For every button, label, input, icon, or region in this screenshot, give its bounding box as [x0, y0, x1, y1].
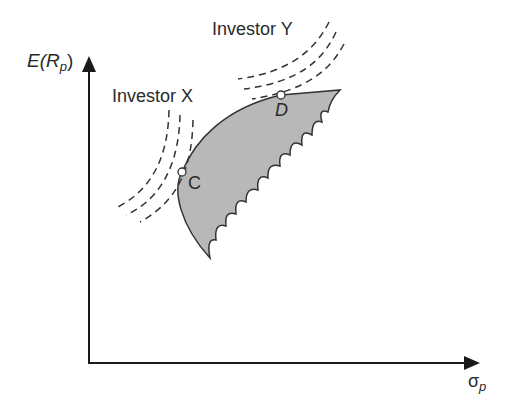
y-axis-arrow-icon [82, 56, 96, 72]
point-d-label: D [275, 100, 288, 121]
y-axis-label-sub: p [60, 59, 67, 74]
point-d-marker [277, 91, 285, 99]
point-c-marker [178, 168, 186, 176]
investor-x-label: Investor X [112, 86, 193, 107]
x-axis-label-main: σ [468, 371, 479, 391]
x-axis-label: σp [468, 371, 486, 394]
feasible-region [178, 90, 340, 258]
y-axis-label: E(Rp) [27, 50, 73, 74]
point-c-label: C [188, 173, 201, 194]
diagram-canvas [0, 0, 508, 410]
investor-y-label: Investor Y [212, 19, 293, 40]
y-axis-label-main: E(R [27, 50, 60, 71]
y-axis-label-close: ) [67, 50, 73, 71]
x-axis-label-sub: p [479, 379, 486, 394]
x-axis-arrow-icon [464, 356, 480, 370]
